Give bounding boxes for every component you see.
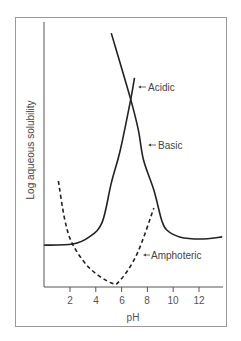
x-tick-label: 12 xyxy=(193,295,204,306)
x-tick-label: 4 xyxy=(93,295,99,306)
basic-label: Basic xyxy=(158,140,182,151)
acidic-label: Acidic xyxy=(148,82,175,93)
acidic-curve xyxy=(44,78,134,245)
amphoteric-arrow-head xyxy=(143,254,146,257)
acidic-arrow-head xyxy=(138,86,141,89)
amphoteric-label: Amphoteric xyxy=(151,250,202,261)
plot-area xyxy=(0,0,241,341)
x-tick-label: 8 xyxy=(144,295,150,306)
y-axis-label: Log aqueous solubility xyxy=(25,101,36,200)
amphoteric-curve xyxy=(58,181,153,284)
x-tick-label: 10 xyxy=(167,295,178,306)
basic-arrow-head xyxy=(148,144,151,147)
x-axis-label: pH xyxy=(127,312,140,323)
series-group xyxy=(44,33,222,284)
x-ticks xyxy=(70,287,199,292)
basic-curve xyxy=(111,33,222,239)
x-tick-label: 6 xyxy=(119,295,125,306)
x-tick-label: 2 xyxy=(67,295,73,306)
